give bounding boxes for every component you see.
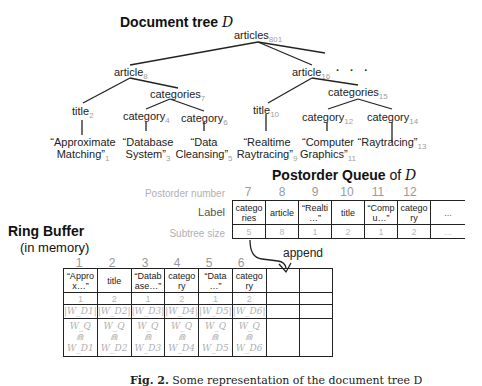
cell-line2: ase…” — [132, 281, 165, 291]
cap-icon: ⋒ — [98, 332, 131, 343]
node-label: article — [114, 66, 143, 78]
node-number: 15 — [379, 92, 388, 101]
node-label: categories — [328, 86, 379, 98]
cell-line1: “Data — [199, 271, 232, 281]
node-number: 8 — [143, 72, 147, 81]
queue-label-row: categories article “Realti…” title “Comp… — [233, 201, 466, 225]
leaf-number: 1 — [105, 154, 109, 163]
ring-intersection-cell: W_Q⋒W_D3 — [131, 319, 165, 357]
postorder-number: 8 — [266, 185, 298, 199]
ring-cell-empty — [299, 293, 332, 305]
leaf-line2: “Raytracing” — [358, 136, 418, 148]
tree-node-category-12: category12 — [302, 111, 353, 126]
cell-line1: catego — [398, 203, 430, 213]
node-label: article — [292, 66, 321, 78]
append-label: append — [283, 246, 323, 260]
ring-intersection-cell: W_Q⋒W_D1 — [64, 319, 98, 357]
ring-cell: “Approx…” — [64, 269, 98, 293]
leaf-line1: “Computer — [298, 136, 358, 148]
wq: W_Q — [199, 321, 232, 332]
ring-size-cell: 2 — [232, 293, 266, 305]
queue-size-cell: 1 — [299, 225, 332, 239]
queue-size-cell: 8 — [266, 225, 299, 239]
node-label: title — [72, 105, 89, 117]
cell-line2: x…” — [64, 281, 97, 291]
postorder-number: 12 — [394, 185, 426, 199]
cell-line2: u…” — [365, 213, 397, 223]
queue-size-cell: 5 — [233, 225, 266, 239]
node-number: 2 — [89, 111, 93, 120]
ring-cell-empty — [266, 269, 299, 293]
document-tree-var: D — [222, 14, 233, 30]
leaf-number: 5 — [228, 154, 232, 163]
tree-leaf-13: “Raytracing”13 — [356, 136, 428, 153]
cap-icon: ⋒ — [132, 332, 165, 343]
wd: W_D4 — [165, 343, 198, 354]
tree-node-articles: articles801 — [234, 29, 282, 44]
cap-icon: ⋒ — [165, 332, 198, 343]
ring-wsize-cell: |W_D4| — [165, 305, 199, 319]
document-tree-heading: Document tree D — [120, 14, 233, 30]
node-label: categories — [150, 88, 201, 100]
ring-size-cell: 2 — [165, 293, 199, 305]
leaf-line1: “Data — [174, 136, 234, 148]
leaf-line1: “Database — [120, 136, 176, 148]
cap-icon: ⋒ — [199, 332, 232, 343]
tree-node-categories-7: categories7 — [150, 88, 205, 103]
ring-cell-empty — [266, 319, 299, 357]
leaf-line2: Graphics” — [300, 148, 348, 160]
ring-size-cell: 1 — [199, 293, 233, 305]
queue-cell: category — [398, 201, 431, 225]
row-label-postorder: Postorder number — [120, 188, 225, 199]
wq: W_Q — [98, 321, 131, 332]
row-label-subtree-size: Subtree size — [150, 228, 225, 239]
tree-node-article-8: article8 — [114, 66, 148, 81]
ring-cell: “Database…” — [131, 269, 165, 293]
ring-intersection-row: W_Q⋒W_D1 W_Q⋒W_D2 W_Q⋒W_D3 W_Q⋒W_D4 W_Q⋒… — [64, 319, 333, 357]
ring-cell: “Data…” — [199, 269, 233, 293]
node-number: 16 — [321, 72, 330, 81]
leaf-number: 13 — [418, 142, 427, 151]
wq: W_Q — [64, 321, 97, 332]
queue-cell: article — [266, 201, 299, 225]
wd: W_D3 — [132, 343, 165, 354]
caption-fig: Fig. 2. — [130, 374, 169, 386]
cell-line1: “Realti — [299, 203, 331, 213]
cell-line1: catego — [165, 271, 198, 281]
queue-heading-of: of — [389, 167, 401, 183]
leaf-number: 11 — [348, 154, 356, 163]
tree-node-categories-15: categories15 — [328, 86, 388, 101]
wd: W_D1 — [64, 343, 97, 354]
cell-line2: …” — [199, 281, 232, 291]
cap-icon: ⋒ — [64, 332, 97, 343]
document-tree-heading-text: Document tree — [120, 14, 218, 30]
queue-heading-var: D — [405, 167, 416, 183]
tree-leaf-11: “ComputerGraphics”11 — [298, 136, 358, 165]
queue-cell: “Compu…” — [365, 201, 398, 225]
ring-wsize-cell: |W_D5| — [199, 305, 233, 319]
cell-line1: catego — [233, 271, 266, 281]
node-number: 4 — [165, 116, 169, 125]
leaf-line1: “Approximate — [50, 136, 116, 148]
ring-label-row: “Approx…” title “Database…” category “Da… — [64, 269, 333, 293]
leaf-line2: Cleansing” — [175, 148, 228, 160]
leaf-line2: System” — [126, 148, 166, 160]
node-label: category — [302, 111, 344, 123]
ring-size-cell: 1 — [131, 293, 165, 305]
node-label: title — [253, 104, 270, 116]
cell-line2: ries — [233, 213, 265, 223]
cap-icon: ⋒ — [233, 332, 266, 343]
ring-intersection-cell: W_Q⋒W_D5 — [199, 319, 233, 357]
ring-cell-empty — [299, 319, 332, 357]
tree-leaf-3: “DatabaseSystem”3 — [120, 136, 176, 165]
wd: W_D6 — [233, 343, 266, 354]
ring-cell: category — [165, 269, 199, 293]
node-number: 12 — [344, 117, 353, 126]
queue-size-cell: 2 — [398, 225, 431, 239]
tree-ellipsis: . . . — [336, 61, 371, 73]
node-number: 14 — [409, 117, 418, 126]
node-label: category — [181, 112, 223, 124]
queue-cell: “Realti…” — [299, 201, 332, 225]
node-number: 10 — [270, 110, 279, 119]
queue-size-cell: 1 — [365, 225, 398, 239]
